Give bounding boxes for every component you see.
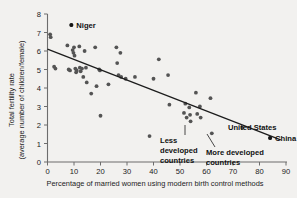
annotation-china: China: [268, 134, 297, 143]
data-point: [194, 91, 198, 95]
data-point: [148, 134, 152, 138]
data-point: [75, 69, 79, 73]
data-point: [209, 96, 213, 100]
data-point: [80, 67, 84, 71]
y-tick-group: 0 1 2 3 4 5 6 7 8: [37, 10, 48, 167]
more-developed-label-line2: countries: [206, 158, 240, 167]
data-point: [84, 66, 88, 70]
y-tick-label-2: 2: [37, 121, 41, 130]
x-tick-label-0: 0: [45, 167, 49, 176]
y-tick-label-4: 4: [37, 84, 41, 93]
x-tick-label-20: 20: [96, 167, 104, 176]
x-tick-label-40: 40: [149, 167, 157, 176]
y-axis-title-line2: (average number of children/female): [17, 40, 26, 159]
data-point: [65, 44, 69, 48]
data-point: [166, 73, 170, 77]
data-point: [188, 113, 192, 117]
annotation-united-states: United States: [228, 123, 277, 132]
data-point: [73, 54, 77, 58]
less-developed-label-line2: developed: [160, 146, 198, 155]
data-point: [189, 119, 193, 123]
data-point: [133, 75, 137, 79]
data-point: [157, 57, 161, 61]
data-point: [185, 116, 189, 120]
x-tick-label-80: 80: [255, 167, 263, 176]
x-tick-label-50: 50: [176, 167, 184, 176]
x-tick-label-10: 10: [70, 167, 78, 176]
y-tick-label-7: 7: [37, 29, 41, 38]
y-axis-title-line1: Total fertility rate: [7, 73, 16, 127]
data-point: [83, 49, 87, 53]
less-developed-label-line1: Less: [160, 136, 177, 145]
china-label: China: [275, 134, 297, 143]
niger-label: Niger: [76, 21, 95, 30]
y-tick-label-1: 1: [37, 140, 41, 149]
data-point: [72, 45, 76, 49]
data-point: [182, 111, 186, 115]
data-point: [99, 114, 103, 118]
more-developed-leader-line: [207, 134, 215, 147]
data-point: [199, 116, 203, 120]
annotation-niger: Niger: [69, 21, 95, 30]
y-tick-label-3: 3: [37, 103, 41, 112]
data-point: [54, 67, 58, 71]
data-point: [187, 106, 191, 110]
data-point: [95, 84, 99, 88]
data-point: [93, 45, 97, 49]
data-point: [115, 45, 119, 49]
more-developed-label-line1: More developed: [206, 148, 264, 157]
scatter-chart: Total fertility rate (average number of …: [0, 0, 297, 198]
niger-point-marker: [69, 23, 73, 27]
data-point: [68, 69, 72, 73]
data-point: [115, 61, 119, 65]
data-point: [195, 112, 199, 116]
data-point: [89, 92, 93, 96]
y-tick-label-0: 0: [37, 158, 41, 167]
data-point: [107, 82, 111, 86]
data-point: [85, 81, 89, 85]
china-point-marker: [268, 136, 272, 140]
x-tick-label-90: 90: [282, 167, 290, 176]
data-point: [210, 131, 214, 135]
less-developed-label-line3: countries: [160, 156, 194, 165]
data-point: [77, 44, 81, 48]
data-point: [152, 77, 156, 81]
data-point: [118, 51, 122, 55]
x-tick-label-60: 60: [202, 167, 210, 176]
data-point: [168, 103, 172, 107]
y-tick-label-6: 6: [37, 47, 41, 56]
data-point: [49, 35, 53, 39]
y-tick-label-5: 5: [37, 66, 41, 75]
x-tick-label-70: 70: [229, 167, 237, 176]
annotation-less-developed: Less developed countries: [160, 125, 198, 165]
united-states-label: United States: [228, 123, 277, 132]
data-point: [81, 75, 85, 79]
x-axis-title: Percentage of married women using modern…: [47, 179, 264, 188]
y-tick-label-8: 8: [37, 10, 41, 19]
x-tick-label-30: 30: [123, 167, 131, 176]
